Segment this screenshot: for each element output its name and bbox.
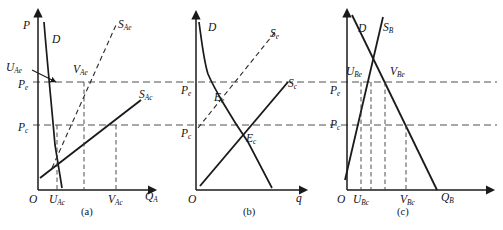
panel-a-v-ae-label: VAe (73, 64, 88, 76)
panel-c-price-c-label: Pc (330, 119, 340, 131)
panel-a-demand-label: D (52, 34, 60, 46)
panel-a-price-e-label: Pe (18, 79, 28, 91)
panel-a-xtick-u-ac: UAc (49, 194, 65, 206)
panel-c-xtick-u-bc: UBc (353, 194, 369, 206)
panel-b-e-c-label: Ec (246, 133, 256, 145)
panel-a (32, 16, 149, 190)
panel-c-u-be-label: UBe (346, 66, 362, 78)
panel-c-caption: (c) (397, 206, 409, 217)
panel-c-v-be-label: VBe (390, 66, 405, 78)
panel-a-supply-elastic-label: SAe (118, 19, 132, 31)
panel-c (345, 15, 487, 190)
panel-b-demand-label: D (208, 22, 216, 34)
panel-b-price-c-label: Pc (181, 128, 191, 140)
panel-c-xtick-v-bc: VBc (400, 194, 415, 206)
panel-c-demand-curve (352, 15, 437, 190)
panel-a-origin-label: O (29, 194, 37, 206)
panel-c-supply-b-label: SB (383, 22, 393, 34)
panel-b-demand-curve (199, 22, 272, 188)
panel-b-supply-controlled-label: Sc (288, 78, 297, 90)
panel-a-caption: (a) (81, 206, 93, 217)
panel-a-xtick-v-ac: VAc (108, 194, 123, 206)
panel-b-supply-elastic-label: Se (270, 28, 279, 40)
panel-c-origin-label: O (337, 194, 345, 206)
panel-b-e-e-label: Ee (214, 92, 224, 104)
panel-c-demand-label: D (358, 23, 366, 35)
panel-b-price-e-label: Pe (181, 85, 191, 97)
panel-a-y-axis-label: P (23, 20, 30, 32)
panel-a-u-ae-label: UAe (6, 62, 22, 74)
panel-a-supply-elastic-curve (52, 25, 116, 168)
panel-b-x-axis-label: q (296, 193, 302, 205)
economics-figure: P D SAe SAc UAe VAe Pe Pc O UAc VAc QA (… (0, 0, 503, 230)
panel-b-origin-label: O (188, 194, 196, 206)
panel-a-price-c-label: Pc (18, 122, 28, 134)
panel-a-x-axis-label: QA (145, 191, 158, 203)
panel-b (196, 18, 300, 190)
panel-b-caption: (b) (243, 206, 255, 217)
panel-c-x-axis-label: QB (441, 192, 454, 204)
figure-canvas (0, 0, 503, 230)
panel-a-supply-controlled-label: SAc (139, 89, 153, 101)
panel-c-price-e-label: Pe (330, 85, 340, 97)
